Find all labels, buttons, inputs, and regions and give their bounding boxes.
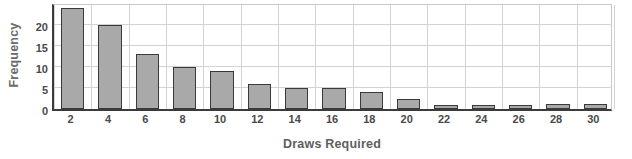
bar xyxy=(98,25,121,109)
bar xyxy=(434,105,457,109)
x-tick-label: 30 xyxy=(573,113,613,125)
x-tick-label: 14 xyxy=(275,113,315,125)
bar xyxy=(509,105,532,109)
histogram-chart: Frequency 05101520 246810121416182022242… xyxy=(0,0,632,159)
y-tick-label: 15 xyxy=(8,42,48,54)
bar xyxy=(173,67,196,109)
x-tick-label: 26 xyxy=(499,113,539,125)
x-tick-label: 22 xyxy=(424,113,464,125)
y-tick-label: 10 xyxy=(8,63,48,75)
x-tick-label: 2 xyxy=(51,113,91,125)
x-tick-label: 16 xyxy=(312,113,352,125)
bar xyxy=(248,84,271,109)
bar xyxy=(285,88,308,109)
x-tick-label: 20 xyxy=(387,113,427,125)
y-axis-tick-labels: 05101520 xyxy=(0,0,48,159)
y-tick-label: 0 xyxy=(8,105,48,117)
x-tick-label: 12 xyxy=(237,113,277,125)
bar xyxy=(61,8,84,109)
x-tick-label: 10 xyxy=(200,113,240,125)
y-tick-label: 5 xyxy=(8,84,48,96)
x-axis-title: Draws Required xyxy=(52,137,612,151)
bar xyxy=(546,104,569,109)
bar-series xyxy=(54,5,611,109)
bar xyxy=(210,71,233,109)
bar xyxy=(397,99,420,109)
plot-area xyxy=(52,4,612,111)
x-tick-label: 4 xyxy=(88,113,128,125)
gridline-vertical xyxy=(614,5,615,109)
bar xyxy=(136,54,159,109)
x-axis-tick-labels: 24681012141618202224262830 xyxy=(52,113,612,133)
x-tick-label: 6 xyxy=(125,113,165,125)
y-tick-label: 20 xyxy=(8,21,48,33)
x-tick-label: 8 xyxy=(163,113,203,125)
bar xyxy=(360,92,383,109)
x-tick-label: 28 xyxy=(536,113,576,125)
bar xyxy=(472,105,495,109)
x-tick-label: 18 xyxy=(349,113,389,125)
x-tick-label: 24 xyxy=(461,113,501,125)
bar xyxy=(322,88,345,109)
bar xyxy=(584,104,607,109)
